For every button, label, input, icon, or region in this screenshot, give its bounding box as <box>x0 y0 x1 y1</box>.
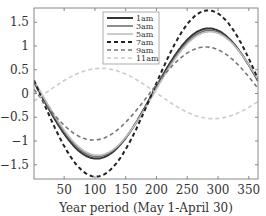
line-chart: −1.5−1−0.500.511.5 50100150200250300350 … <box>0 0 266 216</box>
chart-container: −1.5−1−0.500.511.5 50100150200250300350 … <box>0 0 266 216</box>
x-tick-label: 150 <box>114 183 137 197</box>
y-tick-label: −0.5 <box>0 110 29 124</box>
y-tick-label: 0.5 <box>10 63 29 77</box>
y-tick-label: 1 <box>21 39 29 53</box>
x-tick-label: 250 <box>176 183 199 197</box>
y-tick-label: 1.5 <box>10 15 29 29</box>
y-tick-label: −1 <box>11 134 29 148</box>
legend-label: 11am <box>136 54 159 63</box>
x-tick-label: 50 <box>57 183 72 197</box>
series-line-11am <box>34 68 258 118</box>
y-tick-label: 0 <box>21 87 29 101</box>
y-tick-label: −1.5 <box>0 158 29 172</box>
x-axis-label: Year period (May 1-April 30) <box>58 201 233 215</box>
x-tick-label: 350 <box>237 183 260 197</box>
x-tick-label: 200 <box>145 183 168 197</box>
legend: 1am3am5am7am9am11am <box>103 12 159 64</box>
x-tick-label: 100 <box>83 183 106 197</box>
x-tick-label: 300 <box>207 183 230 197</box>
